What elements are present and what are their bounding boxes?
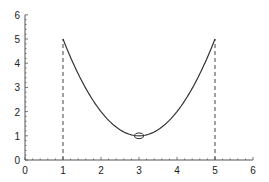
- parabola-chart: 01234560123456: [0, 0, 269, 182]
- x-tick-label: 2: [98, 165, 104, 176]
- y-tick-label: 1: [14, 131, 20, 142]
- x-tick-label: 4: [174, 165, 180, 176]
- x-tick-label: 1: [60, 165, 66, 176]
- y-tick-label: 0: [14, 155, 20, 166]
- tick-labels: 01234560123456: [14, 10, 256, 176]
- data-series: [63, 39, 215, 136]
- y-tick-label: 6: [14, 10, 20, 21]
- x-tick-label: 0: [22, 165, 28, 176]
- y-tick-label: 5: [14, 34, 20, 45]
- y-tick-label: 4: [14, 58, 20, 69]
- x-tick-label: 6: [250, 165, 256, 176]
- x-tick-label: 5: [212, 165, 218, 176]
- x-tick-label: 3: [136, 165, 142, 176]
- y-tick-label: 3: [14, 82, 20, 93]
- parabola-curve: [63, 39, 215, 136]
- y-tick-label: 2: [14, 107, 20, 118]
- plot-area: 01234560123456: [0, 0, 269, 182]
- annotations: [63, 39, 215, 160]
